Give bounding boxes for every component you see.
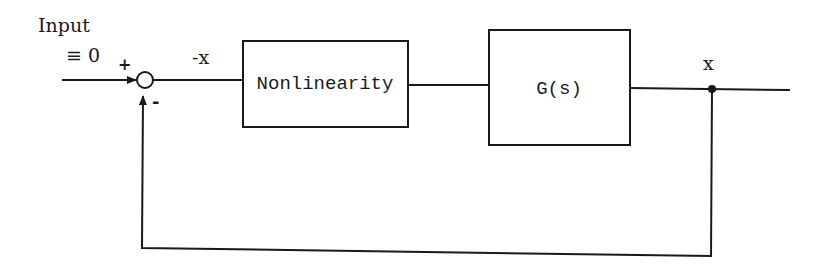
nonlinearity-block-label: Nonlinearity [257, 73, 394, 95]
output-signal-label: x [703, 52, 714, 74]
minus-sign-label: - [152, 91, 159, 112]
nonlinearity-block: Nonlinearity [243, 41, 408, 127]
summing-junction-icon [137, 72, 153, 88]
input-label: Input [38, 14, 90, 36]
plus-sign-label: + [118, 55, 131, 74]
block-diagram: Input ≡ 0 + - -x Nonlinearity G(s) x [0, 0, 839, 274]
plant-block: G(s) [489, 30, 630, 145]
input-value-label: ≡ 0 [66, 44, 100, 66]
error-signal-label: -x [192, 46, 209, 68]
plant-block-label: G(s) [536, 78, 582, 100]
